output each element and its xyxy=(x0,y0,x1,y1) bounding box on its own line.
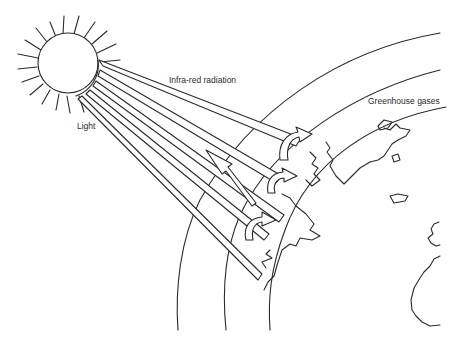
coastline-east-2 xyxy=(411,256,440,326)
greenhouse-diagram: Light Infra-red radiation Greenhouse gas… xyxy=(0,0,463,345)
sun-disc xyxy=(38,33,98,93)
earth-coastlines xyxy=(262,120,440,326)
light-beams xyxy=(78,70,284,280)
reflection-arrows xyxy=(245,127,312,240)
diagram-canvas xyxy=(0,0,463,345)
island-2 xyxy=(392,154,400,162)
coastline-east-1 xyxy=(428,222,440,246)
light-label: Light xyxy=(77,121,95,131)
greenhouse-gases-label: Greenhouse gases xyxy=(368,96,440,106)
island-3 xyxy=(390,194,408,203)
coastline-peninsula xyxy=(262,250,272,268)
infra-red-label: Infra-red radiation xyxy=(169,75,236,85)
light-beam-3 xyxy=(86,90,269,240)
